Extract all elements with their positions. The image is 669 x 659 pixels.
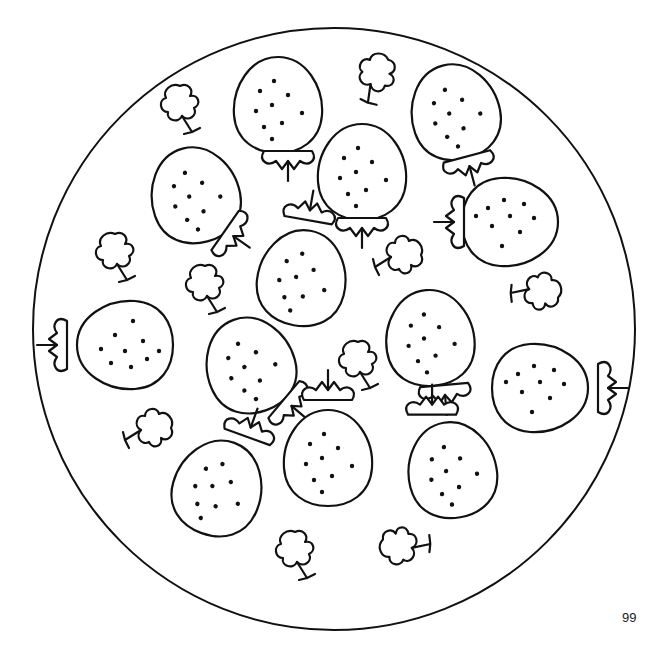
page-number: 99 bbox=[622, 610, 636, 625]
coloring-illustration bbox=[0, 0, 669, 659]
